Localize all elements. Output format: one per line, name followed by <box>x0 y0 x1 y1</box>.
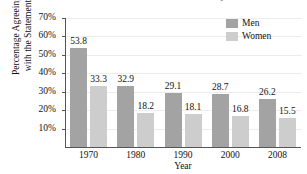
x-axis-title: Year <box>65 161 301 171</box>
legend-label: Women <box>242 32 271 42</box>
bar-value-label: 15.5 <box>279 106 296 116</box>
bar-women-2008: 15.5 <box>279 118 296 147</box>
bar-women-2000: 16.8 <box>232 116 249 147</box>
bar-men-2008: 26.2 <box>259 99 276 147</box>
chart-title-text: are best exhibited in the home and famil… <box>80 0 227 1</box>
bar-value-label: 18.1 <box>185 102 202 112</box>
bar-value-label: 18.2 <box>137 101 154 111</box>
bar-value-label: 53.8 <box>70 36 87 46</box>
chart-title-cropped: are best exhibited in the home and famil… <box>0 0 307 7</box>
y-axis-tick-label: 20% <box>39 105 56 115</box>
bar-women-1980: 18.2 <box>137 113 154 147</box>
bar-value-label: 33.3 <box>90 74 107 84</box>
y-axis-tick-label: 10% <box>39 124 56 134</box>
x-axis-line <box>65 147 301 148</box>
legend-swatch-women <box>226 32 238 41</box>
legend-item-men: Men <box>226 19 271 29</box>
y-axis-tick-label: 50% <box>39 50 56 60</box>
legend-item-women: Women <box>226 32 271 42</box>
bar-men-1980: 32.9 <box>117 86 134 147</box>
bar-men-2000: 28.7 <box>212 94 229 147</box>
y-axis-tick-label: 70% <box>39 13 56 23</box>
chart-legend: MenWomen <box>226 19 271 41</box>
y-axis-tick-label: 30% <box>39 87 56 97</box>
bar-women-1970: 33.3 <box>90 86 107 147</box>
bar-group: 53.833.3 <box>65 18 112 147</box>
bar-value-label: 16.8 <box>232 104 249 114</box>
legend-label: Men <box>242 19 259 29</box>
bar-men-1970: 53.8 <box>70 48 87 147</box>
bar-men-1990: 29.1 <box>165 93 182 147</box>
y-axis-tick-label: 40% <box>39 69 56 79</box>
bar-value-label: 32.9 <box>117 74 134 84</box>
bar-value-label: 28.7 <box>212 82 229 92</box>
bar-chart: are best exhibited in the home and famil… <box>0 0 307 174</box>
bar-value-label: 26.2 <box>259 87 276 97</box>
bar-group: 29.118.1 <box>159 18 206 147</box>
bar-value-label: 29.1 <box>165 81 182 91</box>
y-axis-tick-label: 60% <box>39 32 56 42</box>
bar-group: 32.918.2 <box>112 18 159 147</box>
legend-swatch-men <box>226 19 238 28</box>
y-axis-tick-labels: 10%20%30%40%50%60%70% <box>0 18 62 147</box>
bar-women-1990: 18.1 <box>185 114 202 147</box>
